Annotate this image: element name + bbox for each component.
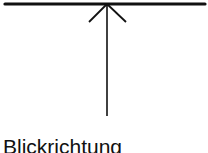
viewing-direction-diagram	[0, 0, 208, 153]
diagram-label: Blickrichtung	[3, 136, 122, 153]
up-arrow-icon	[89, 4, 126, 116]
